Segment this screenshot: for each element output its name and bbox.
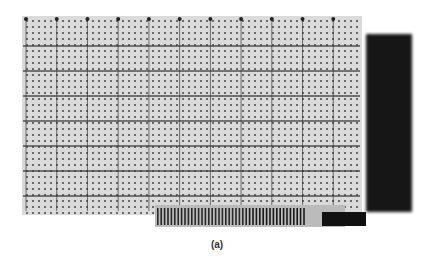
connector-finger bbox=[232, 208, 234, 225]
connector-finger bbox=[300, 208, 302, 225]
bus-terminal bbox=[24, 17, 28, 21]
bus-terminal bbox=[55, 17, 59, 21]
figure-caption: (a) bbox=[0, 239, 434, 250]
connector-finger bbox=[215, 208, 217, 225]
connector-finger bbox=[293, 208, 295, 225]
connector-finger bbox=[279, 208, 281, 225]
connector-finger bbox=[201, 208, 203, 225]
connector-finger bbox=[276, 208, 278, 225]
connector-finger bbox=[266, 208, 268, 225]
bus-terminal bbox=[178, 17, 182, 21]
bus-terminal bbox=[301, 17, 305, 21]
connector-finger bbox=[184, 208, 186, 225]
bus-terminal bbox=[208, 17, 212, 21]
connector-finger bbox=[174, 208, 176, 225]
connector-finger bbox=[171, 208, 173, 225]
connector-finger bbox=[198, 208, 200, 225]
connector-finger bbox=[296, 208, 298, 225]
connector-finger bbox=[249, 208, 251, 225]
connector-finger bbox=[225, 208, 227, 225]
bus-terminal bbox=[147, 17, 151, 21]
dark-side-panel bbox=[366, 34, 412, 212]
connector-finger bbox=[222, 208, 224, 225]
connector-finger bbox=[164, 208, 166, 225]
connector-finger bbox=[256, 208, 258, 225]
connector-dark-end bbox=[322, 212, 366, 226]
connector-finger bbox=[228, 208, 230, 225]
bus-terminal bbox=[85, 17, 89, 21]
connector-finger bbox=[188, 208, 190, 225]
connector-finger bbox=[157, 208, 159, 225]
connector-finger bbox=[177, 208, 179, 225]
connector-finger bbox=[286, 208, 288, 225]
edge-connector bbox=[155, 205, 366, 227]
bus-terminal bbox=[331, 17, 335, 21]
bus-terminal bbox=[116, 17, 120, 21]
connector-finger bbox=[160, 208, 162, 225]
connector-finger bbox=[252, 208, 254, 225]
connector-finger bbox=[211, 208, 213, 225]
bus-terminal bbox=[239, 17, 243, 21]
connector-finger bbox=[290, 208, 292, 225]
connector-finger bbox=[181, 208, 183, 225]
connector-finger bbox=[191, 208, 193, 225]
connector-finger bbox=[283, 208, 285, 225]
connector-finger bbox=[239, 208, 241, 225]
connector-finger bbox=[273, 208, 275, 225]
connector-finger bbox=[242, 208, 244, 225]
connector-finger bbox=[205, 208, 207, 225]
circuit-board-photo bbox=[0, 0, 434, 264]
connector-finger bbox=[208, 208, 210, 225]
connector-finger bbox=[245, 208, 247, 225]
bus-terminal bbox=[270, 17, 274, 21]
connector-finger bbox=[303, 208, 305, 225]
connector-finger bbox=[167, 208, 169, 225]
connector-finger bbox=[262, 208, 264, 225]
connector-finger bbox=[269, 208, 271, 225]
connector-finger bbox=[194, 208, 196, 225]
connector-finger bbox=[259, 208, 261, 225]
connector-finger bbox=[235, 208, 237, 225]
connector-finger bbox=[218, 208, 220, 225]
